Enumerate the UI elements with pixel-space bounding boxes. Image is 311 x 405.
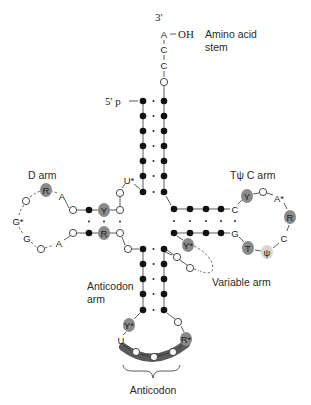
anticodon-loop-U: U	[118, 335, 125, 346]
amino-acid-stem-label-1: Amino acid	[205, 28, 257, 40]
amino-acid-stem-label-2: stem	[205, 41, 228, 53]
d-loop-G: G	[23, 233, 30, 244]
anticodon-loop-Ystar: Y*	[124, 320, 134, 331]
variable-arm: Y* Variable arm	[167, 236, 271, 288]
d-stem-Y: Y	[101, 205, 108, 216]
tpsic-loop-C: C	[281, 233, 288, 244]
tpsic-loop-psi: ψ	[264, 247, 271, 258]
d-loop-R: R	[43, 185, 50, 196]
tpsic-loop-R: R	[287, 212, 294, 223]
oh-label: OH	[178, 28, 194, 40]
tpsic-stem-G: G	[231, 228, 238, 239]
anticodon-label: Anticodon	[130, 384, 177, 396]
variable-Ystar: Y*	[183, 240, 193, 251]
tpsic-loop-T: T	[245, 243, 251, 254]
anticodon-brace	[123, 365, 180, 378]
d-arm-label: D arm	[28, 169, 57, 181]
acceptor-O	[160, 78, 167, 85]
anticodon-arm-label-2: arm	[87, 293, 105, 305]
d-loop-A1: A	[59, 191, 66, 202]
variable-arm-label: Variable arm	[212, 276, 271, 288]
d-connector-U: U*	[124, 175, 135, 186]
d-stem-R: R	[101, 228, 108, 239]
acceptor-stem: 3' A OH C C Amino acid stem 5' p	[105, 11, 257, 195]
d-loop-A2: A	[56, 238, 63, 249]
d-arm: D arm U* Y R A R G*	[12, 169, 140, 253]
tpsic-arm-label: Tψ C arm	[230, 169, 276, 181]
acceptor-stem-pairs	[140, 98, 168, 196]
acceptor-C2: C	[161, 60, 168, 71]
tpsic-stem-C: C	[232, 204, 239, 215]
five-prime-label: 5' p	[105, 95, 121, 107]
tpsic-loop-Y: Y	[244, 191, 251, 202]
anticodon-loop-Rstar: R*	[181, 334, 192, 345]
acceptor-A: A	[161, 29, 168, 40]
acceptor-C1: C	[161, 44, 168, 55]
trna-cloverleaf-diagram: 3' A OH C C Amino acid stem 5' p D arm	[0, 0, 311, 405]
three-prime-label: 3'	[155, 11, 163, 23]
tpsic-loop-Astar: A*	[274, 193, 284, 204]
anticodon-arm-label-1: Anticodon	[87, 280, 134, 292]
d-loop-Gstar: G*	[12, 216, 23, 227]
anticodon-arm: Anticodon arm Y* U R* Anticodon	[87, 246, 192, 396]
